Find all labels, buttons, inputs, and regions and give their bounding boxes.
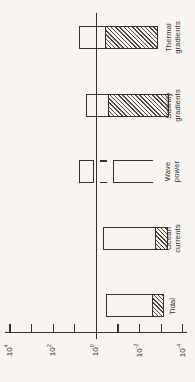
- bar-dash: [100, 182, 107, 183]
- bar-segment-open: [86, 94, 109, 117]
- category-label: Wave power: [151, 137, 195, 207]
- bar-segment-hatched: [105, 26, 159, 49]
- axis-tick: [74, 324, 75, 333]
- category-label-text: Wave power: [165, 161, 182, 182]
- bar-segment-open: [79, 26, 106, 49]
- category-label-text: Thermal gradients: [165, 21, 182, 54]
- bar-dash: [100, 160, 107, 161]
- axis-tick: [9, 324, 10, 333]
- axis-tick-label-text: 102: [49, 344, 58, 356]
- reference-line: [96, 13, 97, 339]
- bar-segment-hatched: [152, 294, 164, 317]
- bar-segment-open: [79, 160, 94, 183]
- chart-figure: 10410210010-210-4Thermal gradientsSalini…: [0, 0, 195, 382]
- axis-tick-label: 104: [0, 335, 25, 365]
- axis-tick: [53, 324, 54, 333]
- axis-tick: [182, 324, 183, 333]
- axis-tick: [161, 324, 162, 333]
- axis-tick: [31, 324, 32, 333]
- bar-segment-open: [113, 160, 153, 183]
- axis-tick-label-text: 100: [92, 344, 101, 356]
- bar-segment-open: [103, 227, 156, 250]
- axis-tick-label: 10-4: [168, 335, 195, 365]
- axis-tick-label: 10-2: [125, 335, 155, 365]
- axis-tick-label-text: 10-4: [179, 343, 188, 357]
- axis-tick-label: 102: [38, 335, 68, 365]
- axis-tick-label-text: 10-2: [135, 343, 144, 357]
- bar-segment-open: [106, 294, 153, 317]
- axis-tick-label-text: 104: [6, 344, 15, 356]
- bar-segment-hatched: [155, 227, 168, 250]
- category-label-text: Tidal: [169, 297, 178, 314]
- bar-segment-hatched: [108, 94, 170, 117]
- axis-tick: [139, 324, 140, 333]
- axis-tick-label: 100: [81, 335, 111, 365]
- axis-tick: [117, 324, 118, 333]
